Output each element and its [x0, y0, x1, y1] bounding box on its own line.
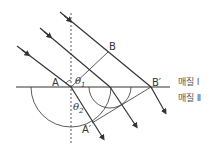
- refracted-wavefront: [92, 87, 151, 123]
- theta1-subscript: 1: [81, 81, 85, 89]
- label-A: A: [52, 78, 59, 88]
- refraction-diagram: [0, 0, 221, 152]
- ray-2-refracted: [110, 87, 136, 126]
- label-B-prime: B′: [152, 78, 161, 88]
- theta1-angle-arc: [66, 80, 71, 83]
- ray-1-arrow-icon: [22, 50, 28, 55]
- label-theta1: θ1: [75, 76, 86, 89]
- label-medium-1: 매질 Ⅰ: [178, 78, 200, 87]
- ray-3-arrow-icon: [64, 16, 70, 21]
- label-B: B: [109, 42, 116, 52]
- label-A-prime: A′: [82, 125, 91, 135]
- theta2-subscript: 2: [79, 107, 83, 115]
- ray-3-refracted: [151, 87, 165, 112]
- ray-3-incident: [60, 12, 151, 87]
- label-medium-2: 매질 Ⅱ: [178, 94, 201, 103]
- ray-2-arrow-icon: [44, 32, 50, 37]
- label-theta2: θ2: [73, 102, 84, 115]
